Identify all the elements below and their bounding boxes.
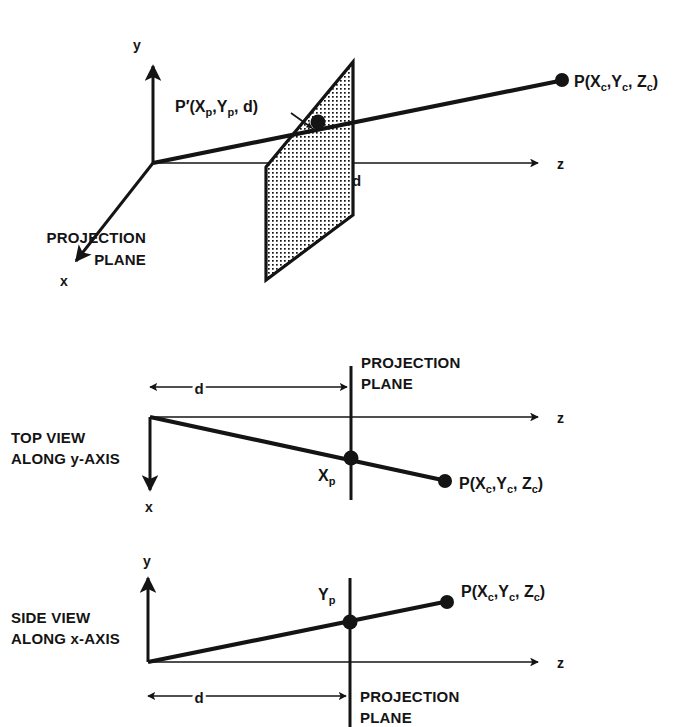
sideview-yp-sub: p [329, 594, 336, 606]
sideview-y-axis-label: y [143, 553, 151, 569]
perspective-p-label-end: , Z [628, 73, 647, 90]
topview-z-axis-label: z [557, 410, 564, 426]
topview-point-p-marker [438, 474, 452, 488]
sideview-yp-label: Y [318, 586, 329, 603]
perspective-y-axis-label: y [133, 37, 141, 53]
perspective-plane-label-line1: PROJECTION [46, 229, 146, 246]
sideview-p-label-close: ) [540, 583, 545, 600]
perspective-point-pprime-marker [311, 115, 326, 130]
sideview-p-label-end: , Z [515, 583, 534, 600]
perspective-pprime-prefix: P′(X [175, 98, 206, 115]
perspective-z-axis-label: z [557, 156, 564, 172]
topview-plane-label-line2: PLANE [361, 375, 413, 392]
sideview-caption-line1: SIDE VIEW [11, 609, 91, 626]
sideview-distance-label: d [194, 689, 203, 706]
sideview-caption-line2: ALONG x-AXIS [11, 630, 120, 647]
sideview-point-p-marker [440, 595, 454, 609]
sideview-z-axis-label: z [557, 655, 564, 671]
topview-x-axis-label: x [145, 499, 153, 515]
topview-distance-label: d [194, 380, 203, 397]
sideview-plane-label-line2: PLANE [360, 709, 412, 726]
sideview-plane-label-line1: PROJECTION [360, 688, 460, 705]
topview-projected-point-marker [344, 451, 359, 466]
topview-p-label-prefix: P(X [459, 475, 486, 492]
perspective-distance-label: d [352, 172, 361, 189]
sideview-projected-point-marker [343, 615, 358, 630]
sideview-p-label-mid: ,Y [494, 583, 509, 600]
perspective-pprime-end: , d) [234, 98, 258, 115]
perspective-point-p-marker [555, 73, 569, 87]
perspective-plane-label-line2: PLANE [94, 251, 146, 268]
perspective-p-label-close: ) [653, 73, 658, 90]
topview-caption-line1: TOP VIEW [11, 429, 86, 446]
topview-xp-sub: p [329, 475, 336, 487]
perspective-p-label-mid: ,Y [607, 73, 622, 90]
sideview-p-label-prefix: P(X [461, 583, 488, 600]
topview-p-label-close: ) [538, 475, 543, 492]
topview-plane-label-line1: PROJECTION [361, 354, 461, 371]
topview-p-label-end: , Z [513, 475, 532, 492]
topview-xp-label: X [318, 467, 329, 484]
perspective-p-label-prefix: P(X [574, 73, 601, 90]
topview-caption-line2: ALONG y-AXIS [11, 450, 120, 467]
perspective-x-axis-label: x [60, 273, 68, 289]
perspective-pprime-mid: ,Y [212, 98, 227, 115]
topview-p-label-mid: ,Y [492, 475, 507, 492]
projection-diagram: y z x d P(Xc,Yc, Zc) P′(Xp,Yp, d) PROJEC… [0, 0, 675, 727]
